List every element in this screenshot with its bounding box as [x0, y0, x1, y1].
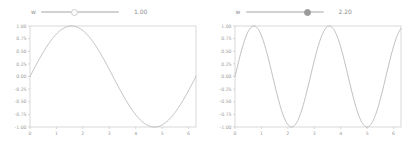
- svg-text:1.00: 1.00: [221, 24, 231, 29]
- svg-text:4: 4: [134, 131, 137, 136]
- svg-text:0: 0: [233, 131, 236, 136]
- svg-text:3: 3: [312, 131, 315, 136]
- svg-text:-0.25: -0.25: [219, 87, 231, 92]
- slider-value-right: 2.20: [339, 9, 352, 15]
- svg-text:0.00: 0.00: [16, 74, 26, 79]
- slider-label-w-left: w: [28, 9, 36, 15]
- slider-track-right[interactable]: [246, 11, 324, 13]
- plot-svg-left: 1.000.750.500.250.00-0.25-0.50-0.75-1.00…: [0, 20, 205, 153]
- svg-text:1: 1: [259, 131, 262, 136]
- slider-handle-left[interactable]: [71, 9, 78, 16]
- svg-text:-0.50: -0.50: [219, 99, 231, 104]
- plot-frame-right: 1.000.750.500.250.00-0.25-0.50-0.75-1.00…: [219, 24, 400, 136]
- panel-right: w 2.20 1.000.750.500.250.00-0.25-0.50-0.…: [205, 0, 409, 153]
- slider-label-w-right: w: [233, 9, 241, 15]
- frequency-slider-left[interactable]: [41, 6, 119, 18]
- svg-text:-1.00: -1.00: [15, 125, 27, 130]
- svg-text:0.75: 0.75: [16, 36, 26, 41]
- frequency-slider-row-left: w 1.00: [28, 5, 193, 19]
- svg-text:0.25: 0.25: [221, 62, 231, 67]
- svg-text:4: 4: [339, 131, 342, 136]
- frequency-slider-right[interactable]: [246, 6, 324, 18]
- slider-value-left: 1.00: [134, 9, 147, 15]
- plot-svg-right: 1.000.750.500.250.00-0.25-0.50-0.75-1.00…: [205, 20, 409, 153]
- svg-text:5: 5: [161, 131, 164, 136]
- svg-text:0: 0: [29, 131, 32, 136]
- svg-text:1.00: 1.00: [16, 24, 26, 29]
- svg-text:-0.75: -0.75: [219, 112, 231, 117]
- slider-handle-right[interactable]: [304, 9, 311, 16]
- plot-left: 1.000.750.500.250.00-0.25-0.50-0.75-1.00…: [0, 20, 205, 153]
- svg-text:0.50: 0.50: [16, 49, 26, 54]
- svg-text:0.25: 0.25: [16, 62, 26, 67]
- svg-text:0.50: 0.50: [221, 49, 231, 54]
- plot-frame-left: 1.000.750.500.250.00-0.25-0.50-0.75-1.00…: [15, 24, 196, 136]
- svg-text:6: 6: [187, 131, 190, 136]
- plot-right: 1.000.750.500.250.00-0.25-0.50-0.75-1.00…: [205, 20, 409, 153]
- frequency-slider-row-right: w 2.20: [233, 5, 398, 19]
- svg-text:3: 3: [108, 131, 111, 136]
- svg-text:-0.25: -0.25: [15, 87, 27, 92]
- svg-text:0.75: 0.75: [221, 36, 231, 41]
- panel-left: w 1.00 1.000.750.500.250.00-0.25-0.50-0.…: [0, 0, 205, 153]
- svg-text:5: 5: [365, 131, 368, 136]
- sine-wave-slider-app: w 1.00 1.000.750.500.250.00-0.25-0.50-0.…: [0, 0, 409, 153]
- svg-text:2: 2: [81, 131, 84, 136]
- svg-text:-0.50: -0.50: [15, 99, 27, 104]
- svg-text:0.00: 0.00: [221, 74, 231, 79]
- svg-text:1: 1: [55, 131, 58, 136]
- svg-text:6: 6: [392, 131, 395, 136]
- svg-text:-1.00: -1.00: [219, 125, 231, 130]
- svg-text:2: 2: [286, 131, 289, 136]
- slider-track-left[interactable]: [41, 11, 119, 13]
- svg-text:-0.75: -0.75: [15, 112, 27, 117]
